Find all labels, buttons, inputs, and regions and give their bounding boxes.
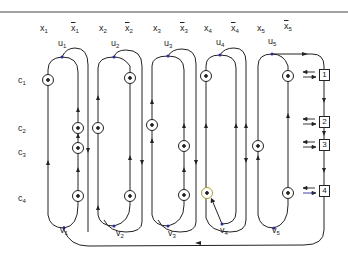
label-v1: v1: [60, 226, 68, 236]
clause-chain: [64, 81, 324, 246]
literal-node: [202, 188, 213, 199]
label-c2: c2: [18, 124, 26, 134]
literal-node: [73, 191, 84, 202]
variable-gadget-1: [48, 48, 88, 232]
label-x3: x3: [153, 24, 161, 34]
label-u2: u2: [111, 39, 119, 49]
variable-gadget-3: [152, 49, 196, 232]
label-x2-bar: x2: [125, 24, 133, 34]
literal-nodes: [43, 71, 294, 202]
label-u5: u5: [268, 37, 276, 47]
literal-node: [73, 143, 84, 154]
clause-box-2: 2: [319, 116, 330, 128]
label-v5: v5: [272, 226, 280, 236]
label-x1: x1: [40, 24, 48, 34]
label-v4: v4: [220, 226, 228, 236]
label-u1: u1: [58, 39, 66, 49]
label-x3-bar: x3: [180, 24, 188, 34]
label-x2: x2: [99, 24, 107, 34]
label-v2: v2: [116, 229, 124, 239]
label-c3: c3: [18, 148, 26, 158]
literal-node: [201, 71, 212, 82]
label-c1: c1: [18, 76, 26, 86]
label-u3: u3: [164, 39, 172, 49]
variable-gadget-4: [206, 48, 246, 232]
literal-node: [73, 123, 84, 134]
reduction-diagram: [0, 0, 348, 263]
literal-node: [179, 141, 190, 152]
label-x5: x5: [257, 24, 265, 34]
clause-box-3: 3: [319, 139, 330, 151]
label-c4: c4: [18, 194, 26, 204]
label-x5-bar: x5: [284, 22, 292, 32]
label-x4-bar: x4: [231, 24, 239, 34]
label-x1-bar: x1: [71, 24, 79, 34]
box-io-arrows: [303, 71, 316, 195]
literal-node: [93, 123, 104, 134]
clause-box-4: 4: [319, 185, 330, 197]
literal-node: [253, 141, 264, 152]
label-x4: x4: [204, 24, 212, 34]
literal-node: [283, 71, 294, 82]
literal-node: [43, 75, 54, 86]
label-u4: u4: [216, 38, 224, 48]
clause-box-1: 1: [319, 69, 330, 81]
label-v3: v3: [168, 229, 176, 239]
literal-node: [283, 188, 294, 199]
junction-dots: [61, 53, 276, 230]
literal-node: [125, 73, 136, 84]
literal-node: [179, 190, 190, 201]
literal-node: [147, 120, 158, 131]
literal-node: [125, 191, 136, 202]
